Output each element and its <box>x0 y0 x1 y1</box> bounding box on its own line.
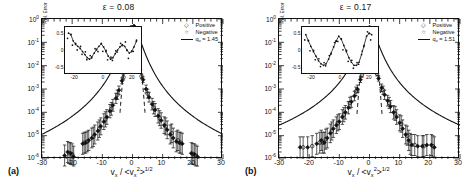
panel-b-legend: ◇ Positive ○ Negative qv = 1.51 <box>418 22 455 43</box>
panel-a-title-value: 0.08 <box>117 2 134 12</box>
panel-a-ytick-5: 10-5 <box>27 130 39 138</box>
panel-a-legend-positive: ◇ Positive <box>181 22 218 29</box>
panel-b-inset-ytick-2: -0.5 <box>292 64 301 70</box>
panel-b-xtick-5: 20 <box>424 159 432 166</box>
panel-a-ytick-0: 100 <box>29 15 39 23</box>
panel-a-inset-ytick-0: 0.5 <box>57 30 64 36</box>
line-icon <box>181 39 193 40</box>
panel-b-ytick-5: 10-5 <box>264 130 276 138</box>
panel-b-inset-xtick-0: -20 <box>307 74 314 80</box>
panel-a-legend: ◇ Positive ○ Negative qv = 1.45 <box>181 22 218 43</box>
panel-a-xtick-3: 0 <box>130 159 134 166</box>
panel-b-title-prefix: ε = <box>340 2 354 12</box>
panel-b-inset-xtick-1: 0 <box>339 74 342 80</box>
panel-b-legend-fit: qv = 1.51 <box>418 36 455 43</box>
panel-b-inset-data <box>302 27 378 73</box>
panel-a-legend-fit: qv = 1.45 <box>181 36 218 43</box>
panel-b-xlabel: vx / <vx2>1/2 <box>278 166 459 178</box>
panel-b-inset-xtick-2: 20 <box>366 74 372 80</box>
panel-b-ytick-3: 10-3 <box>264 84 276 92</box>
panel-b-inset-ytick-0: 0.5 <box>294 30 301 36</box>
panel-b-xtick-0: -30 <box>274 159 284 166</box>
panel-a-xtick-6: 30 <box>217 159 225 166</box>
panel-b-inset-ylabel: Rel. Error <box>279 0 285 33</box>
diamond-icon: ◇ <box>181 22 193 29</box>
panel-a-xtick-4: 10 <box>157 159 165 166</box>
panel-a-title-prefix: ε = <box>103 2 117 12</box>
panel-b-title: ε = 0.17 <box>237 2 474 12</box>
figure-container: ε = 0.08 Probability 100 10-1 10-2 10-3 … <box>0 0 474 192</box>
panel-a-xtick-0: -30 <box>37 159 47 166</box>
panel-b-ytick-0: 100 <box>266 15 276 23</box>
panel-a-xtick-2: -10 <box>97 159 107 166</box>
panel-a-xlabel: vx / <vx2>1/2 <box>41 166 222 178</box>
line-icon <box>418 39 430 40</box>
panel-a-ytick-4: 10-4 <box>27 107 39 115</box>
panel-b-legend-fit-label: qv = 1.51 <box>433 36 455 44</box>
diamond-icon: ◇ <box>418 22 430 29</box>
panel-a-ytick-1: 10-1 <box>27 38 39 46</box>
panel-a-inset-xtick-2: 20 <box>129 74 135 80</box>
panel-b-ytick-4: 10-4 <box>264 107 276 115</box>
panel-b-xtick-2: -10 <box>334 159 344 166</box>
panel-a-legend-fit-label: qv = 1.45 <box>196 36 218 44</box>
panel-a-inset-ylabel: Rel. Error <box>42 0 48 33</box>
panel-b-xtick-1: -20 <box>304 159 314 166</box>
panel-b-ytick-1: 10-1 <box>264 38 276 46</box>
panel-a-plot-area: 100 10-1 10-2 10-3 10-4 10-5 10-6 -30 -2… <box>41 18 222 158</box>
panel-a-inset-data <box>65 27 141 73</box>
panel-a: ε = 0.08 Probability 100 10-1 10-2 10-3 … <box>0 0 237 192</box>
panel-b: ε = 0.17 Probability 100 10-1 10-2 10-3 … <box>237 0 474 192</box>
panel-a-inset: Rel. Error 0.5 0 -0.5 -20 0 20 <box>64 26 142 74</box>
panel-a-title: ε = 0.08 <box>0 2 237 12</box>
panel-a-legend-positive-label: Positive <box>196 22 216 29</box>
panel-b-legend-positive-label: Positive <box>433 22 453 29</box>
panel-b-xtick-4: 10 <box>394 159 402 166</box>
panel-a-tag: (a) <box>8 166 19 176</box>
panel-b-plot-area: 100 10-1 10-2 10-3 10-4 10-5 10-6 -30 -2… <box>278 18 459 158</box>
circle-icon: ○ <box>181 29 193 36</box>
panel-a-inset-xtick-0: -20 <box>70 74 77 80</box>
panel-b-ytick-2: 10-2 <box>264 61 276 69</box>
panel-b-legend-positive: ◇ Positive <box>418 22 455 29</box>
panel-a-ytick-2: 10-2 <box>27 61 39 69</box>
circle-icon: ○ <box>418 29 430 36</box>
panel-b-inset: Rel. Error 0.5 0 -0.5 -20 0 20 <box>301 26 379 74</box>
panel-b-xtick-6: 30 <box>454 159 462 166</box>
panel-b-inset-ytick-1: 0 <box>298 47 301 53</box>
panel-a-inset-ytick-2: -0.5 <box>55 64 64 70</box>
panel-a-ytick-3: 10-3 <box>27 84 39 92</box>
panel-b-title-value: 0.17 <box>354 2 371 12</box>
panel-b-tag: (b) <box>245 166 257 176</box>
panel-a-inset-xtick-1: 0 <box>102 74 105 80</box>
panel-a-inset-ytick-1: 0 <box>61 47 64 53</box>
panel-b-xtick-3: 0 <box>367 159 371 166</box>
